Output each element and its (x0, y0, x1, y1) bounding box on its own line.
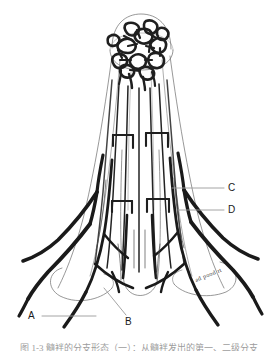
callout-label-d: D (228, 205, 235, 215)
callout-label-c: C (228, 183, 235, 193)
cap-reticular-network (108, 20, 169, 90)
primary-branches (19, 153, 262, 327)
callout-label-a: A (28, 311, 35, 321)
callout-label-b: B (125, 317, 132, 327)
figure-caption: 图 1-3 髓袢的分支形态（一）：从髓袢发出的第一、二级分支 (0, 343, 278, 351)
figure-container: ad pood rt A B C D 图 1-3 髓袢的分支形态（一）：从髓袢发… (0, 0, 278, 351)
leader-line-b (104, 288, 126, 315)
anatomical-line-drawing: ad pood rt (0, 0, 278, 351)
signature-text: ad pood rt (194, 267, 223, 283)
signature-mark: ad pood rt (194, 267, 223, 283)
